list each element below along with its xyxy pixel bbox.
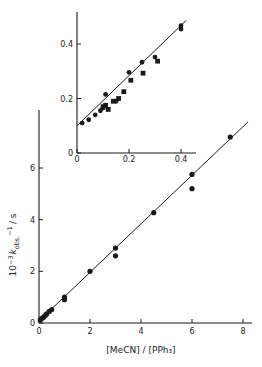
circle-marker bbox=[93, 112, 98, 117]
circle-marker bbox=[127, 70, 132, 75]
circle-marker bbox=[86, 117, 91, 122]
square-marker bbox=[106, 107, 111, 112]
chart-figure: 02468024600.20.400.20.4[MeCN] / [PPh₃]10… bbox=[0, 0, 262, 367]
square-marker bbox=[128, 78, 133, 83]
circle-marker bbox=[113, 245, 118, 250]
circle-marker bbox=[151, 210, 156, 215]
main-x-tick-label: 8 bbox=[240, 327, 245, 336]
main-plot: 024680246 bbox=[30, 110, 252, 336]
inset-x-tick-label: 0.2 bbox=[123, 155, 136, 164]
circle-marker bbox=[80, 121, 85, 126]
inset-y-tick-label: 0.2 bbox=[60, 95, 73, 104]
circle-marker bbox=[228, 134, 233, 139]
circle-marker bbox=[140, 60, 145, 65]
circle-marker bbox=[189, 186, 194, 191]
main-y-tick-label: 2 bbox=[30, 267, 35, 276]
inset-fit-line bbox=[77, 20, 186, 125]
circle-marker bbox=[87, 269, 92, 274]
circle-marker bbox=[113, 253, 118, 258]
main-y-tick-label: 6 bbox=[30, 164, 35, 173]
square-marker bbox=[121, 89, 126, 94]
square-marker bbox=[116, 96, 121, 101]
square-marker bbox=[103, 103, 108, 108]
inset-x-tick-label: 0 bbox=[74, 155, 79, 164]
inset-y-tick-label: 0.4 bbox=[60, 40, 73, 49]
inset-plot: 00.20.400.20.4 bbox=[60, 12, 196, 164]
square-marker bbox=[111, 99, 116, 104]
main-x-tick-label: 4 bbox=[138, 327, 143, 336]
main-y-tick-label: 4 bbox=[30, 216, 35, 225]
circle-marker bbox=[103, 92, 108, 97]
circle-marker bbox=[179, 27, 184, 32]
main-x-tick-label: 0 bbox=[36, 327, 41, 336]
circle-marker bbox=[189, 172, 194, 177]
inset-y-tick-label: 0 bbox=[68, 149, 73, 158]
main-x-tick-label: 6 bbox=[189, 327, 194, 336]
inset-x-tick-label: 0.4 bbox=[175, 155, 188, 164]
main-y-tick-label: 0 bbox=[30, 319, 35, 328]
circle-marker bbox=[62, 297, 67, 302]
circle-marker bbox=[153, 55, 158, 60]
circle-marker bbox=[49, 307, 54, 312]
y-axis-label: 10−3kobs.−1/ s bbox=[6, 213, 21, 276]
x-axis-label: [MeCN] / [PPh₃] bbox=[106, 345, 175, 355]
square-marker bbox=[155, 59, 160, 64]
main-x-tick-label: 2 bbox=[87, 327, 92, 336]
square-marker bbox=[141, 71, 146, 76]
